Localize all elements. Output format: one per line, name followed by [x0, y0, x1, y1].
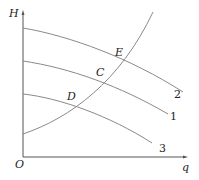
- point-label-d: D: [66, 90, 76, 103]
- curve-label-2: 2: [174, 88, 181, 101]
- diagram-canvas: H q O 2 1 3 E C D: [0, 0, 199, 180]
- pump-system-diagram: H q O 2 1 3 E C D: [0, 0, 199, 180]
- x-axis-label: q: [182, 161, 189, 174]
- origin-label: O: [15, 158, 24, 171]
- point-label-c: C: [96, 66, 105, 79]
- x-axis-arrow-icon: [183, 156, 188, 159]
- pump-curve-3: [23, 94, 152, 143]
- point-label-e: E: [114, 46, 123, 59]
- curve-label-3: 3: [159, 142, 166, 155]
- curve-label-1: 1: [170, 110, 177, 123]
- y-axis-arrow-icon: [22, 10, 25, 15]
- curve-labels: 2 1 3: [159, 88, 181, 155]
- system-curve: [23, 12, 153, 134]
- y-axis-label: H: [8, 7, 19, 20]
- point-labels: E C D: [66, 46, 123, 103]
